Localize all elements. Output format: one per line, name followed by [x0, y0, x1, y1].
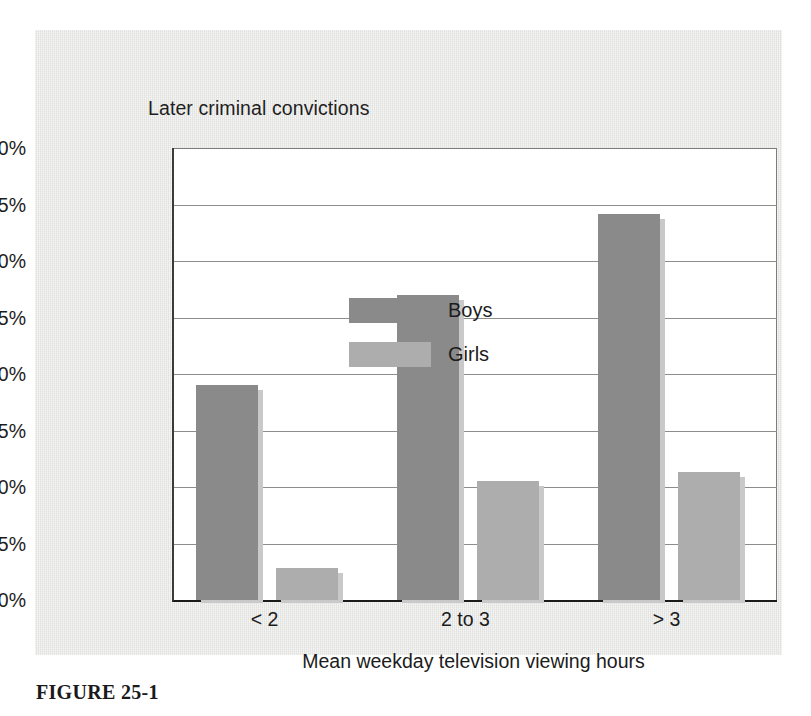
- plot-area: BoysGirls: [172, 148, 777, 602]
- legend-item-boys: Boys: [349, 288, 599, 332]
- bar-girls-0: [276, 568, 338, 600]
- y-axis-tick-label: 30%: [0, 250, 26, 273]
- legend-swatch-girls: [349, 342, 431, 367]
- y-axis-tick-label: 5%: [0, 532, 26, 555]
- legend-swatch-boys: [349, 298, 431, 323]
- y-axis-tick-label: 10%: [0, 476, 26, 499]
- y-axis-tick-label: 25%: [0, 306, 26, 329]
- legend-label: Girls: [448, 343, 489, 366]
- x-axis-tick-label: < 2: [251, 608, 279, 631]
- x-axis-title: Mean weekday television viewing hours: [172, 650, 775, 673]
- gridline: [174, 261, 777, 262]
- legend: BoysGirls: [349, 288, 599, 376]
- legend-item-girls: Girls: [349, 332, 599, 376]
- chart-title: Later criminal convictions: [148, 97, 370, 120]
- figure-panel: Later criminal convictions 0%5%10%15%20%…: [35, 30, 782, 655]
- bar-girls-2: [678, 472, 740, 600]
- y-axis-tick-label: 20%: [0, 363, 26, 386]
- y-axis-tick-label: 40%: [0, 137, 26, 160]
- y-axis-tick-label: 0%: [0, 589, 26, 612]
- y-axis-tick-label: 35%: [0, 193, 26, 216]
- gridline: [174, 431, 777, 432]
- bar-girls-1: [477, 481, 539, 600]
- bar-boys-2: [598, 214, 660, 600]
- figure-caption: FIGURE 25-1: [36, 681, 159, 704]
- bar-boys-0: [196, 385, 258, 600]
- legend-label: Boys: [448, 299, 492, 322]
- x-axis-tick-label: > 3: [653, 608, 681, 631]
- plot-frame-top: [174, 148, 777, 149]
- x-axis-tick-label: 2 to 3: [441, 608, 490, 631]
- gridline: [174, 205, 777, 206]
- y-axis-tick-label: 15%: [0, 419, 26, 442]
